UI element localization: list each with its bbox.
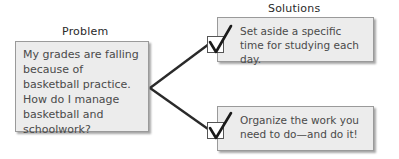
checkmark-icon [207, 24, 237, 56]
checkmark-icon [207, 110, 237, 142]
solution-box-2: Organize the work you need to do—and do … [217, 106, 374, 151]
problem-heading: Problem [62, 25, 108, 38]
solution-box-1: Set aside a specific time for studying e… [217, 17, 374, 62]
problem-box: My grades are falling because of basketb… [15, 41, 149, 132]
problem-text: My grades are falling because of basketb… [23, 48, 139, 136]
solution-text-1: Set aside a specific time for studying e… [240, 25, 359, 65]
solutions-heading: Solutions [268, 2, 320, 15]
solution-text-2: Organize the work you need to do—and do … [240, 114, 359, 140]
